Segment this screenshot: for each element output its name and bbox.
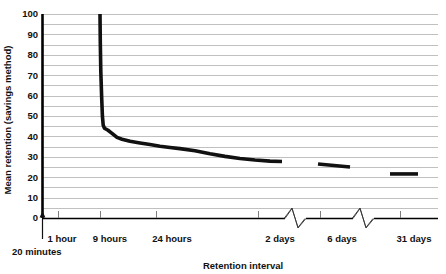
y-tick-label: 30 [27, 151, 38, 162]
y-tick-label: 100 [22, 8, 38, 19]
y-tick-label: 10 [27, 192, 38, 203]
y-tick-label: 20 [27, 172, 38, 183]
x-tick-label-24hours: 24 hours [152, 233, 192, 244]
chart-container: 0102030405060708090100 Mean retention (s… [0, 0, 446, 274]
x-tick-label-31days: 31 days [397, 233, 432, 244]
y-tick-label: 60 [27, 90, 38, 101]
y-tick-label: 70 [27, 70, 38, 81]
y-tick-label: 40 [27, 131, 38, 142]
y-tick-label: 80 [27, 49, 38, 60]
y-axis-title: Mean retention (savings method) [2, 46, 13, 195]
x-axis-title: Retention interval [203, 260, 283, 271]
y-tick-label: 50 [27, 110, 38, 121]
x-tick-label-2days: 2 days [265, 233, 295, 244]
x-tick-label-1hour: 1 hour [47, 233, 76, 244]
forgetting-curve-chart: 0102030405060708090100 Mean retention (s… [0, 0, 446, 274]
x-tick-label-9hours: 9 hours [93, 233, 127, 244]
x-tick-label-6days: 6 days [327, 233, 357, 244]
y-tick-label: 90 [27, 29, 38, 40]
x-tick-label-20minutes: 20 minutes [12, 246, 62, 257]
y-tick-label: 0 [33, 212, 38, 223]
